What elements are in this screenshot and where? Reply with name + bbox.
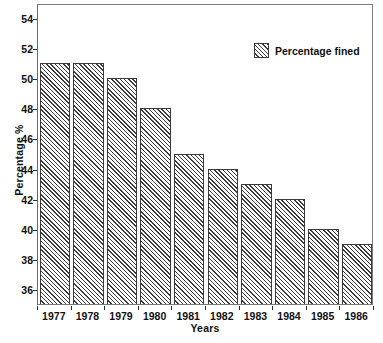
y-tick-label: 52 (3, 43, 33, 55)
bar-1985 (308, 229, 338, 304)
bar-1981 (174, 154, 204, 305)
legend-label: Percentage fined (275, 45, 360, 57)
bar-1977 (40, 63, 70, 304)
plot-area: Percentage fined (37, 4, 373, 305)
x-tick-mark (171, 306, 172, 310)
bar-1982 (208, 169, 238, 304)
x-tick-label-1984: 1984 (277, 310, 300, 322)
x-tick-mark (37, 306, 38, 310)
y-tick-label: 40 (3, 224, 33, 236)
x-tick-label-1985: 1985 (311, 310, 334, 322)
x-tick-label-1986: 1986 (345, 310, 368, 322)
legend-swatch-icon (254, 43, 269, 58)
x-tick-mark (71, 306, 72, 310)
y-tick-label: 36 (3, 284, 33, 296)
x-tick-mark (104, 306, 105, 310)
bar-1986 (342, 244, 372, 304)
x-tick-mark (306, 306, 307, 310)
x-tick-label-1980: 1980 (143, 310, 166, 322)
bar-1983 (241, 184, 271, 304)
x-tick-mark (339, 306, 340, 310)
y-tick-label: 44 (3, 164, 33, 176)
x-tick-mark (205, 306, 206, 310)
x-tick-mark (373, 306, 374, 310)
x-tick-mark (239, 306, 240, 310)
x-tick-label-1978: 1978 (76, 310, 99, 322)
x-tick-label-1977: 1977 (42, 310, 65, 322)
y-tick-label: 42 (3, 194, 33, 206)
x-tick-label-1982: 1982 (210, 310, 233, 322)
bar-1978 (73, 63, 103, 304)
x-tick-label-1983: 1983 (244, 310, 267, 322)
y-tick-label: 38 (3, 254, 33, 266)
x-tick-mark (272, 306, 273, 310)
x-tick-mark (138, 306, 139, 310)
bar-1979 (107, 78, 137, 304)
bar-chart: Percentage % 36384042444648505254 Percen… (0, 0, 383, 343)
chart-legend: Percentage fined (254, 43, 360, 58)
x-tick-label-1979: 1979 (109, 310, 132, 322)
bar-1980 (140, 108, 170, 304)
y-tick-label: 46 (3, 133, 33, 145)
y-tick-label: 50 (3, 73, 33, 85)
bar-1984 (275, 199, 305, 304)
y-tick-label: 48 (3, 103, 33, 115)
x-axis-title: Years (37, 322, 373, 334)
y-tick-label: 54 (3, 13, 33, 25)
y-axis-ticks: 36384042444648505254 (0, 0, 33, 343)
x-tick-label-1981: 1981 (177, 310, 200, 322)
